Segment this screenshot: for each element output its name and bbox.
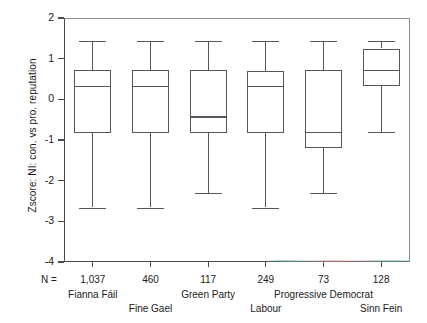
lower-whisker: [265, 133, 266, 207]
iqr-box: [305, 70, 342, 148]
n-value: 117: [200, 274, 216, 285]
lower-whisker: [323, 148, 324, 193]
box-plot-item: [190, 0, 227, 244]
box-plot-item: [305, 0, 342, 244]
upper-whisker: [265, 41, 266, 71]
box-plot-item: [74, 0, 111, 244]
iqr-box: [247, 71, 284, 133]
box-plot-item: [363, 0, 400, 244]
upper-whisker-cap: [310, 41, 337, 42]
y-tick-label: -4: [0, 255, 54, 267]
upper-whisker-cap: [79, 41, 106, 42]
y-tick-mark: [58, 139, 64, 140]
y-tick-label: 2: [0, 11, 54, 23]
y-tick-mark: [58, 17, 64, 18]
lower-whisker-cap: [137, 208, 164, 209]
lower-whisker-cap: [252, 208, 279, 209]
median-line: [132, 86, 169, 87]
x-tick-mark: [150, 262, 151, 267]
x-tick-mark: [381, 262, 382, 267]
y-tick-label: -1: [0, 133, 54, 145]
n-value: 1,037: [80, 274, 105, 285]
category-label: Sinn Fein: [360, 303, 402, 314]
n-value: 460: [142, 274, 159, 285]
iqr-box: [74, 70, 111, 133]
y-tick-mark: [58, 180, 64, 181]
median-line: [363, 70, 400, 71]
category-label: Fianna Fáil: [68, 289, 117, 300]
y-tick-label: -3: [0, 214, 54, 226]
upper-whisker: [381, 41, 382, 48]
lower-whisker-cap: [195, 193, 222, 194]
category-label: Progressive Democrat: [274, 289, 373, 300]
x-tick-mark: [265, 262, 266, 267]
lower-whisker: [150, 133, 151, 207]
y-tick-mark: [58, 221, 64, 222]
x-tick-mark: [323, 262, 324, 267]
lower-whisker-cap: [310, 193, 337, 194]
median-line: [190, 116, 227, 117]
iqr-box: [190, 70, 227, 133]
upper-whisker: [323, 41, 324, 70]
y-tick-mark: [58, 99, 64, 100]
y-tick-label: 1: [0, 52, 54, 64]
n-value: 249: [257, 274, 274, 285]
x-tick-mark: [92, 262, 93, 267]
category-label: Fine Gael: [129, 303, 172, 314]
iqr-box: [363, 49, 400, 86]
box-plot-chart: Zscore: NI: con. vs pro. reputation 210-…: [0, 0, 427, 323]
lower-whisker: [381, 86, 382, 132]
lower-whisker-cap: [79, 208, 106, 209]
median-line: [305, 132, 342, 133]
box-plot-item: [132, 0, 169, 244]
upper-whisker-cap: [252, 41, 279, 42]
lower-whisker: [92, 133, 93, 208]
upper-whisker: [150, 41, 151, 70]
lower-whisker: [208, 133, 209, 194]
upper-whisker-cap: [195, 41, 222, 42]
y-tick-mark: [58, 261, 64, 262]
y-tick-mark: [58, 58, 64, 59]
n-equals-label: N =: [41, 274, 57, 285]
upper-whisker: [92, 41, 93, 70]
n-value: 73: [318, 274, 329, 285]
box-plot-item: [247, 0, 284, 244]
y-tick-label: -2: [0, 174, 54, 186]
n-value: 128: [373, 274, 390, 285]
x-tick-mark: [208, 262, 209, 267]
median-line: [247, 86, 284, 87]
upper-whisker-cap: [137, 41, 164, 42]
category-label: Green Party: [181, 289, 235, 300]
plot-area: [64, 18, 410, 262]
category-label: Labour: [250, 303, 281, 314]
y-tick-label: 0: [0, 92, 54, 104]
iqr-box: [132, 70, 169, 133]
upper-whisker-cap: [368, 41, 395, 42]
upper-whisker: [208, 41, 209, 70]
median-line: [74, 86, 111, 87]
lower-whisker-cap: [368, 132, 395, 133]
